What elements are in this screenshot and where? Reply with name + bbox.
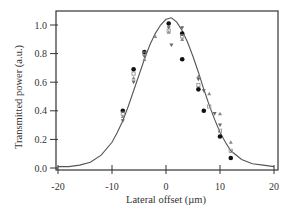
data-point xyxy=(202,109,207,114)
x-tick-label: 10 xyxy=(215,181,225,192)
data-points xyxy=(121,21,234,160)
data-point xyxy=(218,134,223,139)
data-point xyxy=(197,83,200,86)
fit-curve xyxy=(58,18,274,167)
data-point xyxy=(218,124,222,128)
data-point xyxy=(196,78,200,82)
x-tick-label: 20 xyxy=(269,181,279,192)
y-tick-label: 1.0 xyxy=(35,20,48,31)
chart: -20-1001020 0.00.20.40.60.81.0 Lateral o… xyxy=(0,0,294,214)
data-point xyxy=(218,112,222,116)
data-point xyxy=(131,67,136,72)
y-axis-label: Transmitted power (a.u.) xyxy=(13,44,25,149)
y-tick-label: 0.8 xyxy=(35,48,48,59)
y-tick-label: 0.6 xyxy=(35,77,48,88)
data-point xyxy=(180,57,185,62)
x-axis-ticks: -20-1001020 xyxy=(51,165,279,192)
gaussian-fit-line xyxy=(58,18,274,167)
data-point xyxy=(207,92,211,96)
x-tick-label: -20 xyxy=(51,181,64,192)
data-point xyxy=(142,57,146,61)
y-tick-label: 0.0 xyxy=(35,163,48,174)
data-point xyxy=(229,156,234,161)
data-point xyxy=(132,76,136,80)
y-axis-ticks: 0.00.20.40.60.81.0 xyxy=(35,20,59,174)
y-tick-label: 0.2 xyxy=(35,134,48,145)
data-point xyxy=(166,21,171,26)
data-point xyxy=(132,72,135,75)
plot-frame xyxy=(56,11,278,170)
x-axis-label: Lateral offset (µm) xyxy=(126,194,206,206)
x-tick-label: -10 xyxy=(105,181,118,192)
data-point xyxy=(169,43,173,47)
data-point xyxy=(132,81,136,85)
data-point xyxy=(229,140,233,144)
plot-border xyxy=(56,11,278,170)
x-tick-label: 0 xyxy=(164,181,169,192)
data-point xyxy=(196,87,201,92)
data-point xyxy=(121,119,125,123)
y-tick-label: 0.4 xyxy=(35,105,48,116)
